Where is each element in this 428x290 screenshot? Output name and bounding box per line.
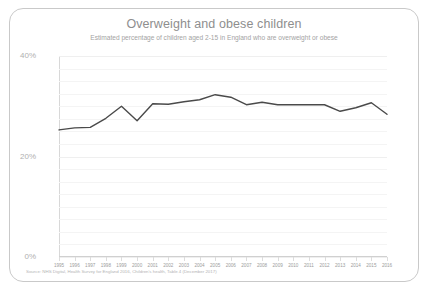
x-axis-tick	[371, 257, 372, 261]
x-axis-tick-label: 2016	[379, 263, 395, 268]
x-axis-line	[59, 256, 387, 257]
x-axis-tick	[309, 257, 310, 261]
x-axis-tick-label: 2014	[348, 263, 364, 268]
x-axis-tick	[293, 257, 294, 261]
x-axis-tick	[200, 257, 201, 261]
x-axis-tick	[215, 257, 216, 261]
x-axis-tick	[184, 257, 185, 261]
x-axis-tick-label: 2005	[207, 263, 223, 268]
x-axis-tick-label: 2006	[223, 263, 239, 268]
x-axis-tick-label: 2012	[317, 263, 333, 268]
x-axis-tick-label: 2015	[363, 263, 379, 268]
x-axis-tick	[90, 257, 91, 261]
x-axis-tick-label: 1996	[67, 263, 83, 268]
series-line	[59, 95, 387, 130]
x-axis-tick-label: 2001	[145, 263, 161, 268]
y-axis-tick-label: 20%	[0, 152, 36, 161]
x-axis-tick	[75, 257, 76, 261]
x-axis-tick-label: 1999	[113, 263, 129, 268]
x-axis-tick	[106, 257, 107, 261]
x-axis-tick-label: 2000	[129, 263, 145, 268]
source-note: Source: NHS Digital, Health Survey for E…	[26, 269, 217, 274]
x-axis-tick-label: 1997	[82, 263, 98, 268]
x-axis-tick	[325, 257, 326, 261]
x-axis-tick-label: 2013	[332, 263, 348, 268]
x-axis-tick-label: 1995	[51, 263, 67, 268]
x-axis-tick	[231, 257, 232, 261]
line-series	[59, 56, 387, 257]
x-axis-tick-label: 2008	[254, 263, 270, 268]
x-axis-tick	[246, 257, 247, 261]
x-axis-tick	[121, 257, 122, 261]
x-axis-tick	[340, 257, 341, 261]
x-axis-tick-label: 2009	[270, 263, 286, 268]
x-axis-tick	[153, 257, 154, 261]
x-axis-tick	[356, 257, 357, 261]
page-title: Overweight and obese children	[10, 17, 418, 31]
x-axis-tick-label: 2010	[285, 263, 301, 268]
x-axis-tick-label: 2011	[301, 263, 317, 268]
gridline	[59, 257, 387, 258]
chart-subtitle: Estimated percentage of children aged 2-…	[10, 34, 418, 41]
x-axis-tick	[59, 257, 60, 261]
y-axis-tick-label: 40%	[0, 51, 36, 60]
x-axis-tick	[168, 257, 169, 261]
x-axis-tick-label: 2004	[192, 263, 208, 268]
y-axis-tick-label: 0%	[0, 252, 36, 261]
chart-card: Overweight and obese children Estimated …	[9, 8, 419, 282]
x-axis-tick-label: 2007	[238, 263, 254, 268]
x-axis-tick-label: 2003	[176, 263, 192, 268]
x-axis-tick	[137, 257, 138, 261]
x-axis-tick-label: 2002	[160, 263, 176, 268]
x-axis-tick-label: 1998	[98, 263, 114, 268]
x-axis-tick	[387, 257, 388, 261]
x-axis-tick	[278, 257, 279, 261]
x-axis-tick	[262, 257, 263, 261]
